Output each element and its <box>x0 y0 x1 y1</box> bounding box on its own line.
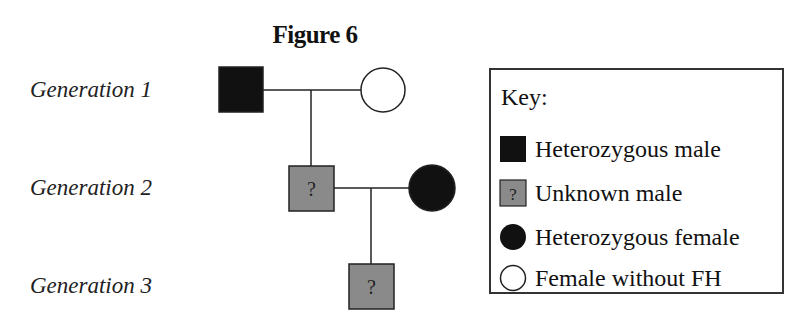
key-item-female-without-fh: Female without FH <box>499 263 722 293</box>
female-without-fh-circle <box>361 68 405 112</box>
key-item-heterozygous-female: Heterozygous female <box>499 222 740 252</box>
svg-text:?: ? <box>509 185 517 204</box>
heterozygous-male-square <box>219 67 263 112</box>
key-label: Heterozygous male <box>535 136 721 163</box>
key-label: Female without FH <box>535 265 722 292</box>
filled-square-icon <box>499 135 527 163</box>
heterozygous-female-circle <box>409 165 455 211</box>
key-label: Unknown male <box>535 180 682 207</box>
grey-square-question-icon: ? <box>499 179 527 207</box>
legend-key: Key: Heterozygous male ? Unknown male He… <box>489 68 784 294</box>
key-item-heterozygous-male: Heterozygous male <box>499 134 721 164</box>
unknown-mark: ? <box>367 276 376 298</box>
key-title: Key: <box>501 84 548 111</box>
unknown-mark: ? <box>307 178 316 200</box>
key-label: Heterozygous female <box>535 224 740 251</box>
open-circle-icon <box>499 264 527 292</box>
filled-circle-icon <box>499 223 527 251</box>
key-item-unknown-male: ? Unknown male <box>499 178 682 208</box>
